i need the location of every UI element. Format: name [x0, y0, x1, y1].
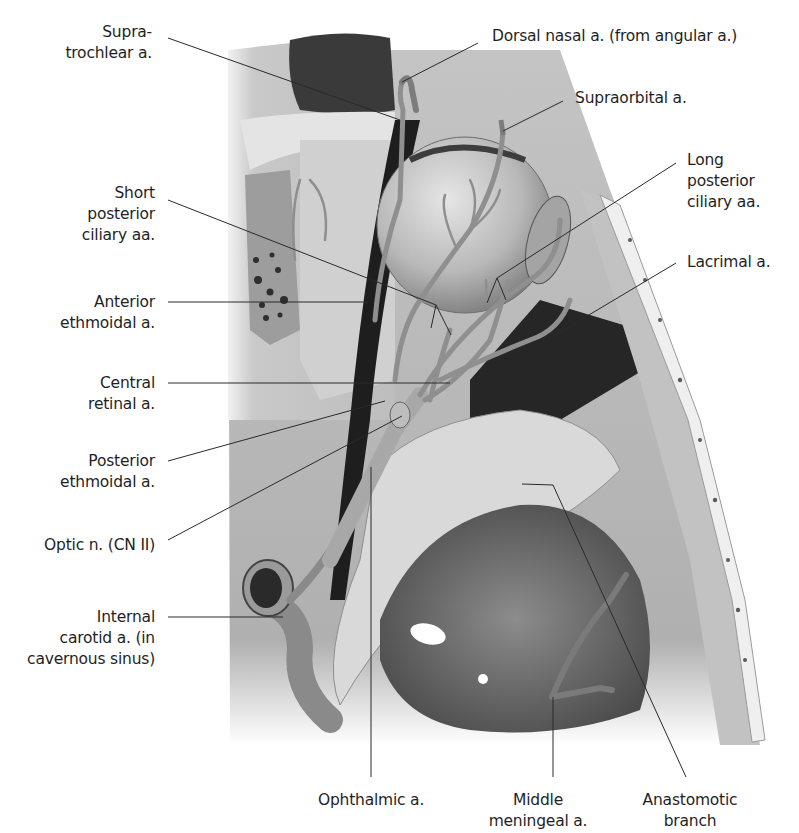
label-anterior-ethmoidal-artery: Anterior ethmoidal a. [30, 292, 155, 334]
label-posterior-ethmoidal-artery: Posterior ethmoidal a. [30, 451, 155, 493]
label-anastomotic-branch: Anastomotic branch [630, 790, 750, 832]
label-lacrimal-artery: Lacrimal a. [687, 252, 770, 273]
label-middle-meningeal-artery: Middle meningeal a. [478, 790, 598, 832]
label-supraorbital-artery: Supraorbital a. [575, 88, 687, 109]
label-central-retinal-artery: Central retinal a. [30, 373, 155, 415]
label-short-posterior-ciliary-arteries: Short posterior ciliary aa. [40, 183, 155, 246]
frontal-sinus [289, 33, 395, 114]
anatomical-illustration [0, 0, 799, 833]
label-supratrochlear-artery: Supra- trochlear a. [40, 22, 152, 64]
label-optic-nerve: Optic n. (CN II) [10, 535, 155, 556]
supraorbital-artery [501, 120, 503, 135]
label-internal-carotid-artery: Internal carotid a. (in cavernous sinus) [0, 607, 155, 670]
label-long-posterior-ciliary-arteries: Long posterior ciliary aa. [687, 150, 760, 213]
foramen-spinosum [478, 674, 488, 684]
orbit-arteries-figure: Supra- trochlear a. Dorsal nasal a. (fro… [0, 0, 799, 833]
label-dorsal-nasal-artery: Dorsal nasal a. (from angular a.) [492, 26, 737, 47]
label-ophthalmic-artery: Ophthalmic a. [301, 790, 441, 811]
